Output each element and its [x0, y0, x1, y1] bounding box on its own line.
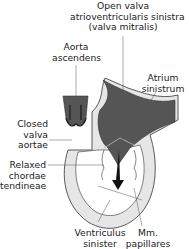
label-line: Relaxed [0, 160, 46, 171]
label-chordae: Relaxed chordae tendineae [0, 160, 46, 192]
label-line: sinister [70, 239, 130, 249]
label-aortic-valve: Closed valva aortae [0, 119, 48, 151]
label-atrium: Atrium sinistrum [140, 73, 186, 94]
label-line: Closed [0, 119, 48, 130]
label-line: papillares [122, 239, 174, 249]
label-line: Open valva [70, 1, 176, 12]
label-line: tendineae [0, 181, 46, 192]
label-line: ascendens [52, 53, 100, 64]
label-line: Ventriculus [70, 228, 130, 239]
label-line: (valva mitralis) [70, 22, 176, 33]
label-line: Aorta [52, 42, 100, 53]
label-aorta: Aorta ascendens [52, 42, 100, 63]
label-line: sinistrum [140, 84, 186, 95]
label-papillary: Mm. papillares [122, 228, 174, 249]
label-line: Atrium [140, 73, 186, 84]
label-ventricle: Ventriculus sinister [70, 228, 130, 249]
label-line: Mm. [122, 228, 174, 239]
label-mitral-open: Open valva atrioventricularis sinistra (… [70, 1, 176, 33]
label-line: aortae [0, 140, 48, 151]
